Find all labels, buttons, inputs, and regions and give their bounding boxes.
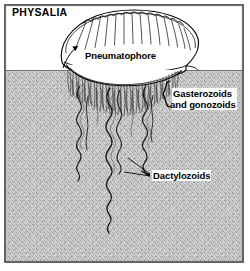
label-dactylozoids: Dactylozoids: [152, 170, 211, 181]
diagram-canvas: [0, 0, 250, 271]
physalia-diagram: PHYSALIA Pneumatophore Gasterozoidsand g…: [0, 0, 250, 271]
figure-title: PHYSALIA: [12, 6, 68, 18]
label-gasterozoids-and-gonozoids: Gasterozoidsand gonozoids: [172, 88, 237, 110]
label-gasterozoids-line2: and gonozoids: [170, 99, 236, 110]
label-pneumatophore: Pneumatophore: [85, 50, 156, 61]
label-gasterozoids-line1: Gasterozoids: [173, 88, 232, 99]
